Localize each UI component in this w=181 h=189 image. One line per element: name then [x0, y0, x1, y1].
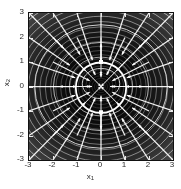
x-tick-label: 2: [139, 160, 157, 170]
y-tick-label: 1: [8, 56, 24, 66]
y-tick-mark: [169, 87, 173, 88]
x-tick-mark: [173, 13, 174, 17]
y-tick-label: -2: [8, 130, 24, 140]
x-tick-label: -2: [43, 160, 61, 170]
y-tick-label: -3: [8, 154, 24, 164]
plot-area: [28, 12, 174, 161]
x-tick-label: 1: [115, 160, 133, 170]
x-tick-label: 0: [91, 160, 109, 170]
y-tick-label: 2: [8, 32, 24, 42]
y-tick-label: -1: [8, 105, 24, 115]
x-tick-mark: [149, 13, 150, 17]
y-axis-title-subscript: 2: [5, 79, 11, 82]
phase-portrait-figure: -3-2-10123 3210-1-2-3 x1 x2: [0, 0, 181, 189]
y-tick-mark: [169, 38, 173, 39]
x-tick-mark: [125, 13, 126, 17]
x-tick-mark: [77, 13, 78, 17]
y-axis-title: x2: [2, 71, 11, 95]
y-axis-title-text: x: [2, 82, 11, 86]
y-tick-mark: [169, 62, 173, 63]
x-tick-label: -1: [67, 160, 85, 170]
y-tick-mark: [29, 13, 33, 14]
x-axis-title-subscript: 1: [91, 175, 94, 181]
x-tick-label: 3: [163, 160, 181, 170]
y-tick-mark: [29, 87, 33, 88]
y-tick-mark: [29, 62, 33, 63]
x-axis-title: x1: [0, 172, 181, 181]
y-tick-mark: [169, 136, 173, 137]
vector-field-canvas: [29, 13, 173, 160]
y-tick-mark: [29, 111, 33, 112]
y-tick-label: 3: [8, 7, 24, 17]
y-tick-mark: [29, 38, 33, 39]
x-tick-mark: [53, 13, 54, 17]
x-tick-mark: [101, 13, 102, 17]
y-tick-mark: [169, 111, 173, 112]
y-tick-mark: [169, 13, 173, 14]
y-tick-mark: [29, 136, 33, 137]
